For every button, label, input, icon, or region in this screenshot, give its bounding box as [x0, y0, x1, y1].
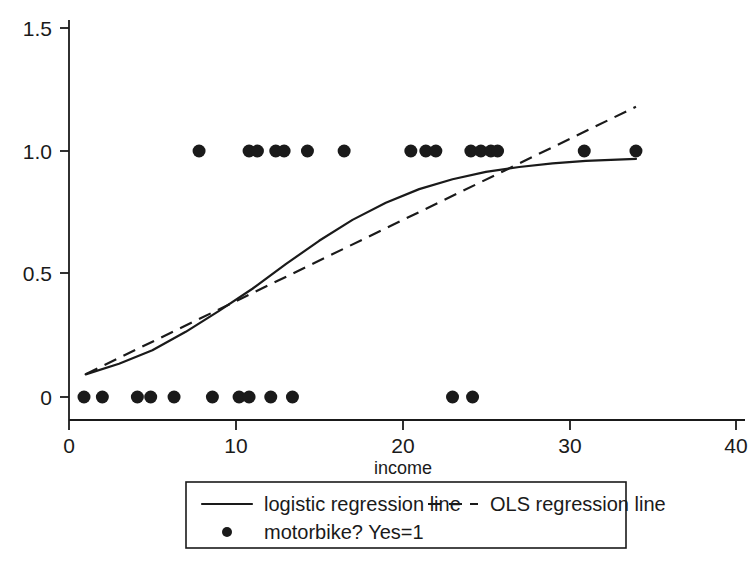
y-tick-label: 1.5 [23, 17, 52, 40]
plot-data-layer [78, 107, 643, 404]
data-point [243, 391, 256, 404]
y-axis-ticks [60, 28, 69, 397]
chart-figure: 1.5 1.0 0.5 0 0 10 20 30 40 income [0, 0, 754, 561]
scatter-plot-svg: 1.5 1.0 0.5 0 0 10 20 30 40 income [0, 0, 754, 561]
data-point [131, 391, 144, 404]
data-point [466, 391, 479, 404]
y-tick-label: 1.0 [23, 140, 52, 163]
chart-legend: logistic regression line OLS regression … [186, 482, 666, 548]
logistic-regression-line [86, 159, 636, 375]
scatter-points-group [78, 145, 643, 404]
x-axis-tick-labels: 0 10 20 30 40 [63, 434, 748, 457]
data-point [629, 145, 642, 158]
data-point [206, 391, 219, 404]
x-tick-label: 20 [391, 434, 414, 457]
data-point [278, 145, 291, 158]
data-point [144, 391, 157, 404]
legend-label-motorbike: motorbike? Yes=1 [264, 521, 424, 543]
y-tick-label: 0 [40, 386, 52, 409]
ols-regression-line [86, 107, 636, 374]
data-point [78, 391, 91, 404]
data-point [429, 145, 442, 158]
y-tick-label: 0.5 [23, 262, 52, 285]
data-point [301, 145, 314, 158]
data-point [404, 145, 417, 158]
data-point [286, 391, 299, 404]
x-tick-label: 30 [558, 434, 581, 457]
data-point [491, 145, 504, 158]
data-point [193, 145, 206, 158]
y-axis-tick-labels: 1.5 1.0 0.5 0 [23, 17, 52, 409]
legend-label-ols: OLS regression line [490, 493, 666, 515]
x-axis-ticks [69, 420, 736, 430]
data-point [338, 145, 351, 158]
x-tick-label: 40 [724, 434, 747, 457]
x-axis-title: income [374, 458, 432, 478]
data-point [96, 391, 109, 404]
legend-circle-marker-icon [222, 527, 232, 537]
data-point [251, 145, 264, 158]
x-tick-label: 0 [63, 434, 75, 457]
x-tick-label: 10 [224, 434, 247, 457]
data-point [578, 145, 591, 158]
data-point [168, 391, 181, 404]
data-point [264, 391, 277, 404]
data-point [446, 391, 459, 404]
